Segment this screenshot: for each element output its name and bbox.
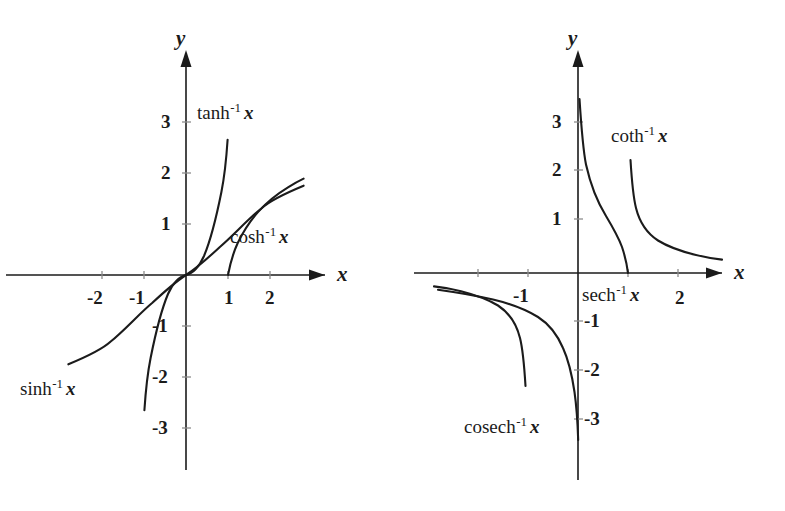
sinh-arg: x [66,378,76,399]
y-tick-label-1: 1 [552,209,561,228]
sech-base: sech [582,284,616,305]
right-panel-plot [392,0,785,511]
x-tick-label-neg1: -1 [129,288,144,307]
curve-label-sinh-inverse: sinh-1x [20,379,75,398]
inverse-hyperbolic-functions-figure: -2 -1 1 2 3 2 1 -1 -2 -3 y x tanh-1x cos… [0,0,785,511]
coth-base: coth [611,125,644,146]
x-tick-label-neg2: -2 [87,288,102,307]
y-tick-label-neg1: -1 [584,311,599,330]
curve-label-cosh-inverse: cosh-1x [230,227,289,246]
y-tick-label-neg3: -3 [152,418,167,437]
coth-arg: x [658,125,668,146]
y-tick-label-1: 1 [161,214,170,233]
curve-label-coth-inverse: coth-1x [611,126,667,145]
y-axis-label: y [568,28,577,49]
y-tick-label-neg1: -1 [152,316,167,335]
tanh-exponent: -1 [230,100,241,115]
chart-panel-right: -1 2 3 2 1 -1 -2 -3 y x coth-1x sech-1x … [392,0,785,511]
y-axis-arrowhead [573,50,584,67]
y-axis-arrowhead [181,50,192,67]
curve-label-tanh-inverse: tanh-1x [197,103,253,122]
tanh-base: tanh [197,102,230,123]
x-axis-label: x [734,262,745,283]
x-tick-label-neg1: -1 [513,286,528,305]
tanh-arg: x [244,102,254,123]
cosh-base: cosh [230,226,265,247]
left-panel-plot [0,0,392,511]
y-tick-label-2: 2 [552,160,561,179]
cosh-arg: x [279,226,289,247]
y-tick-label-neg2: -2 [152,367,167,386]
cosech-base: cosech [464,416,516,437]
x-axis-arrowhead [309,270,325,281]
y-tick-label-3: 3 [552,112,561,131]
sech-exponent: -1 [616,282,627,297]
y-tick-label-2: 2 [161,163,170,182]
sinh-exponent: -1 [52,376,63,391]
cosech-exponent: -1 [516,414,527,429]
x-tick-label-2: 2 [265,288,274,307]
chart-panel-left: -2 -1 1 2 3 2 1 -1 -2 -3 y x tanh-1x cos… [0,0,392,511]
curve-label-cosech-inverse: cosech-1x [464,417,539,436]
x-tick-label-1: 1 [224,288,233,307]
x-axis-label: x [337,264,348,285]
y-tick-label-3: 3 [161,112,170,131]
sinh-base: sinh [20,378,52,399]
cosh-exponent: -1 [265,224,276,239]
x-axis-arrowhead [706,268,722,279]
coth-exponent: -1 [644,123,655,138]
curve-coth-inverse-negative [434,286,526,386]
sech-arg: x [630,284,640,305]
y-tick-label-neg2: -2 [584,360,599,379]
curve-label-sech-inverse: sech-1x [582,285,640,304]
y-tick-label-neg3: -3 [584,409,599,428]
cosech-arg: x [530,416,540,437]
curve-coth-inverse-positive [631,160,723,260]
y-axis-label: y [176,28,185,49]
x-tick-label-2: 2 [675,288,684,307]
